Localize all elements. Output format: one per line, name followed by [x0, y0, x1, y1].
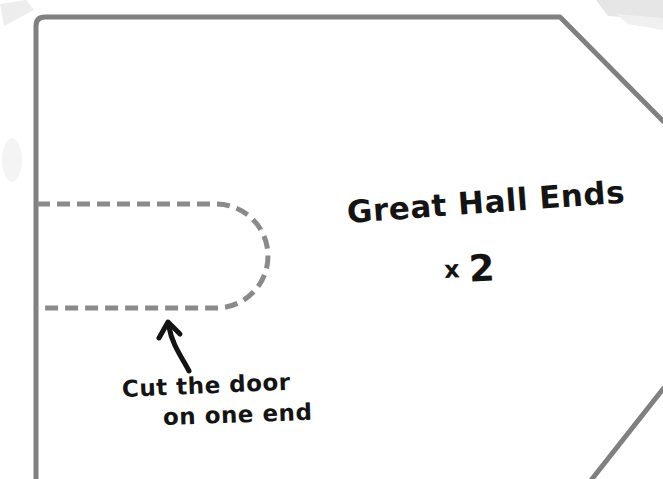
instruction-label-line-2: on one end — [163, 399, 313, 430]
pattern-diagram-canvas: Great Hall Ends x2 Cut the door on one e… — [0, 0, 663, 479]
quantity-label: x2 — [443, 246, 496, 292]
annotation-arrow-layer — [0, 0, 663, 479]
quantity-number: 2 — [468, 246, 496, 290]
quantity-prefix: x — [443, 255, 460, 284]
